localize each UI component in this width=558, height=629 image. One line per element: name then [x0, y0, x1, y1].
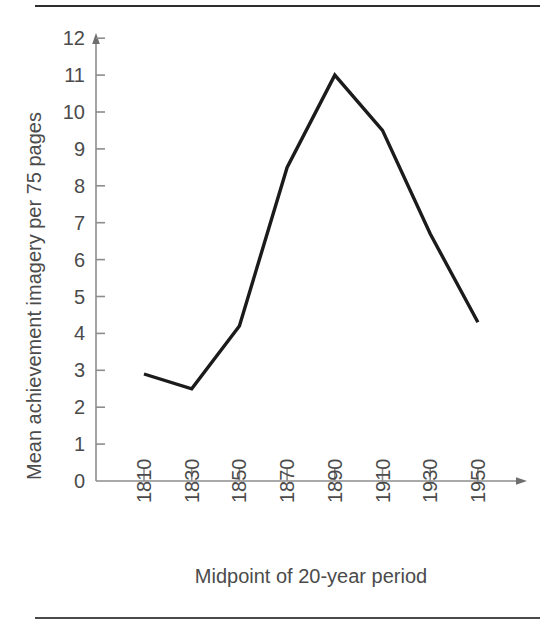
y-tick-label: 10: [63, 101, 85, 123]
x-tick-label: 1830: [181, 459, 203, 504]
y-tick-label: 2: [74, 396, 85, 418]
y-tick-label: 3: [74, 359, 85, 381]
x-tick-label: 1890: [324, 459, 346, 504]
x-axis-title: Midpoint of 20-year period: [195, 565, 427, 587]
y-tick-label: 8: [74, 175, 85, 197]
y-tick-label: 9: [74, 138, 85, 160]
y-axis-title: Mean achievement imagery per 75 pages: [23, 112, 45, 480]
y-tick-label: 1: [74, 433, 85, 455]
x-tick-label: 1810: [133, 459, 155, 504]
y-tick-label: 4: [74, 322, 85, 344]
x-axis-arrow-icon: [516, 477, 527, 485]
figure-page: 0123456789101112 18101830185018701890191…: [0, 0, 558, 629]
y-tick-label: 5: [74, 286, 85, 308]
y-tick-label: 12: [63, 27, 85, 49]
x-tick-label: 1910: [372, 459, 394, 504]
x-tick-label: 1930: [419, 459, 441, 504]
y-tick-label: 7: [74, 212, 85, 234]
y-axis-ticks: 0123456789101112: [63, 27, 105, 492]
y-tick-label: 6: [74, 249, 85, 271]
x-tick-label: 1950: [467, 459, 489, 504]
x-tick-label: 1850: [228, 459, 250, 504]
y-tick-label: 11: [64, 64, 85, 86]
y-tick-label: 0: [74, 470, 85, 492]
data-series-line: [144, 75, 478, 389]
line-chart: 0123456789101112 18101830185018701890191…: [0, 0, 558, 629]
x-tick-label: 1870: [276, 459, 298, 504]
